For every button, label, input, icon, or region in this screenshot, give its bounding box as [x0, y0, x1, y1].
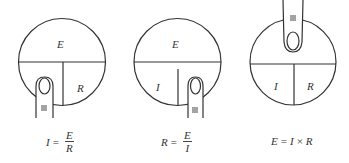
finger-icon — [283, 0, 303, 52]
formula-lhs: I — [46, 136, 50, 148]
denominator: I — [185, 142, 189, 154]
formula-lhs: E — [271, 135, 278, 147]
finger-icon — [188, 77, 203, 118]
equals-sign: = — [281, 135, 287, 147]
multiply-sign: × — [297, 135, 303, 147]
label-current: I — [274, 81, 278, 92]
ohms-law-circle-1 — [19, 19, 106, 106]
label-voltage: E — [172, 39, 179, 50]
formula-current: I = E R — [46, 129, 74, 154]
formula-voltage: E = I × R — [271, 135, 313, 147]
formula-resistance: R = E I — [161, 129, 192, 154]
label-current: I — [156, 82, 160, 93]
formula-term-current: I — [290, 135, 294, 147]
finger-icon — [36, 77, 53, 118]
numerator: E — [65, 129, 74, 142]
fraction: E R — [65, 129, 74, 154]
label-resistance: R — [307, 81, 314, 92]
numerator: E — [183, 129, 192, 142]
ohms-law-circle-2 — [134, 19, 221, 106]
fraction: E I — [183, 129, 192, 154]
formula-lhs: R — [161, 136, 168, 148]
formula-term-resistance: R — [306, 135, 313, 147]
denominator: R — [66, 142, 73, 154]
label-voltage: E — [57, 39, 64, 50]
label-resistance: R — [77, 83, 84, 94]
equals-sign: = — [53, 136, 59, 148]
equals-sign: = — [171, 136, 177, 148]
